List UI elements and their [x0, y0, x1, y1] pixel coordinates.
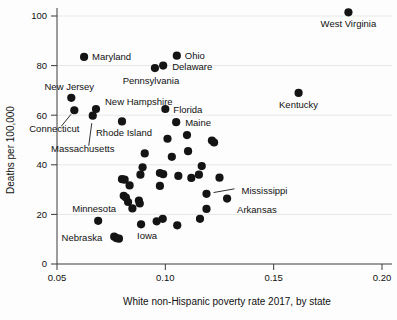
leader-line	[214, 189, 235, 193]
data-point	[159, 170, 167, 178]
y-tick-label: 60	[36, 110, 47, 121]
data-point	[173, 221, 181, 229]
data-point	[136, 171, 144, 179]
point-label: Ohio	[185, 50, 205, 61]
data-point	[156, 182, 164, 190]
point-label: Minnesota	[72, 203, 117, 214]
data-point	[195, 171, 203, 179]
data-point	[125, 181, 133, 189]
data-point	[202, 190, 210, 198]
data-point	[94, 217, 102, 225]
data-point	[80, 53, 88, 61]
data-point	[344, 8, 352, 16]
data-point	[163, 135, 171, 143]
y-tick-label: 20	[36, 209, 47, 220]
y-axis-ticks: 020406080100	[31, 10, 57, 269]
point-label: Arkansas	[237, 204, 277, 215]
data-point	[183, 131, 191, 139]
point-label: Delaware	[172, 61, 212, 72]
data-point	[184, 147, 192, 155]
point-label: Florida	[173, 104, 203, 115]
data-point	[70, 106, 78, 114]
scatter-plot-figure: 0.050.100.150.20 020406080100 West Virgi…	[0, 0, 397, 320]
y-tick-label: 40	[36, 159, 47, 170]
data-point	[151, 64, 159, 72]
x-tick-label: 0.05	[48, 272, 67, 283]
x-axis-title: White non-Hispanic poverty rate 2017, by…	[123, 296, 331, 307]
point-label: Massachusetts	[51, 143, 115, 154]
y-tick-label: 100	[31, 10, 47, 21]
point-label: New Hampshire	[105, 96, 173, 107]
data-point	[174, 172, 182, 180]
point-label: New Jersey	[44, 81, 94, 92]
point-label: Rhode Island	[96, 127, 152, 138]
data-point	[210, 138, 218, 146]
y-tick-label: 0	[42, 258, 47, 269]
data-point	[294, 89, 302, 97]
point-label: Mississippi	[242, 185, 288, 196]
plot-canvas: 0.050.100.150.20 020406080100 West Virgi…	[0, 0, 397, 320]
point-label: Kentucky	[279, 99, 318, 110]
data-point	[172, 118, 180, 126]
point-label: Nebraska	[62, 232, 103, 243]
point-label: Pennsylvania	[123, 75, 180, 86]
data-point	[141, 149, 149, 157]
data-point	[128, 204, 136, 212]
point-label: West Virginia	[321, 18, 377, 29]
data-point	[67, 94, 75, 102]
y-tick-label: 80	[36, 60, 47, 71]
data-point	[89, 112, 97, 120]
x-tick-label: 0.20	[373, 272, 392, 283]
point-label: Connecticut	[29, 123, 80, 134]
data-point	[138, 163, 146, 171]
x-axis-ticks: 0.050.100.150.20	[48, 264, 392, 283]
data-point	[173, 52, 181, 60]
data-point	[136, 199, 144, 207]
point-label: Maine	[185, 117, 211, 128]
point-label: Maryland	[92, 51, 131, 62]
data-point	[223, 194, 231, 202]
data-point	[118, 117, 126, 125]
data-point	[187, 174, 195, 182]
point-label: Iowa	[137, 230, 158, 241]
data-point	[168, 153, 176, 161]
data-point	[215, 174, 223, 182]
data-point	[115, 235, 123, 243]
data-point	[196, 215, 204, 223]
data-point	[159, 215, 167, 223]
data-point	[159, 62, 167, 70]
data-point	[202, 205, 210, 213]
data-point	[198, 162, 206, 170]
data-point	[137, 220, 145, 228]
grid-lines	[57, 16, 392, 214]
y-axis-title: Deaths per 100,000	[5, 106, 16, 194]
x-tick-label: 0.15	[264, 272, 283, 283]
x-tick-label: 0.10	[156, 272, 175, 283]
